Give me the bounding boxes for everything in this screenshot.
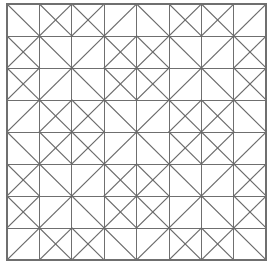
tile-diagonal-slash	[169, 196, 201, 228]
tile-diagonal-slash	[72, 164, 104, 196]
tile-diagonal-bslash	[7, 4, 39, 36]
tile-diagonal-slash	[104, 132, 136, 164]
tile-diagonal-bslash	[104, 100, 136, 132]
tile-diagonal-bslash	[169, 164, 201, 196]
tile-diagonal-slash	[201, 164, 233, 196]
tiling-svg	[0, 0, 273, 266]
tile-diagonal-bslash	[169, 36, 201, 68]
tile-diagonal-slash	[234, 132, 266, 164]
tile-diagonal-slash	[137, 100, 169, 132]
tile-diagonal-bslash	[234, 228, 266, 260]
tile-diagonal-bslash	[39, 164, 71, 196]
tile-diagonal-slash	[137, 228, 169, 260]
tile-diagonal-bslash	[201, 68, 233, 100]
tile-diagonal-slash	[7, 100, 39, 132]
tile-diagonal-bslash	[39, 36, 71, 68]
tile-diagonal-bslash	[137, 132, 169, 164]
tile-diagonal-bslash	[7, 132, 39, 164]
tile-diagonal-bslash	[104, 228, 136, 260]
tile-diagonal-slash	[72, 36, 104, 68]
tile-diagonal-slash	[169, 68, 201, 100]
tile-diagonal-slash	[7, 228, 39, 260]
tile-diagonal-slash	[234, 4, 266, 36]
pattern-figure	[0, 0, 273, 266]
tile-diagonal-bslash	[72, 68, 104, 100]
tile-diagonal-bslash	[201, 196, 233, 228]
tile-diagonal-slash	[201, 36, 233, 68]
tile-diagonal-slash	[104, 4, 136, 36]
tile-diagonal-slash	[39, 196, 71, 228]
tile-diagonal-slash	[39, 68, 71, 100]
tile-diagonal-bslash	[234, 100, 266, 132]
tile-diagonal-bslash	[137, 4, 169, 36]
tile-diagonal-bslash	[72, 196, 104, 228]
